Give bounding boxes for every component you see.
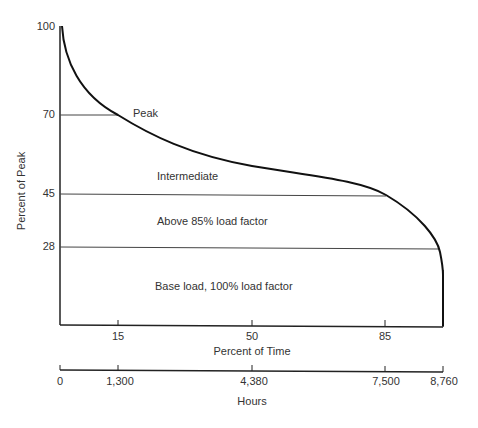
hours-tick-1300: 1,300 (106, 375, 134, 387)
y-tick-28: 28 (31, 240, 55, 252)
region-above85-label: Above 85% load factor (157, 215, 268, 227)
y-axis-label: Percent of Peak (15, 152, 27, 230)
hours-tick-8760: 8,760 (430, 375, 458, 387)
hours-axis-label: Hours (237, 395, 266, 407)
x-axis-label: Percent of Time (213, 345, 290, 357)
region-base-label: Base load, 100% load factor (155, 280, 293, 292)
load-duration-chart (0, 0, 478, 428)
region-intermediate-label: Intermediate (157, 170, 218, 182)
hours-tick-4380: 4,380 (240, 375, 268, 387)
line-45 (60, 194, 386, 196)
x-tick-85: 85 (379, 330, 391, 342)
hours-tick-0: 0 (57, 375, 63, 387)
x-tick-50: 50 (246, 330, 258, 342)
y-tick-45: 45 (31, 187, 55, 199)
region-peak-label: Peak (133, 107, 158, 119)
line-28 (60, 247, 438, 249)
y-tick-70: 70 (31, 108, 55, 120)
hours-tick-7500: 7,500 (372, 375, 400, 387)
y-tick-100: 100 (31, 20, 55, 32)
x-tick-15: 15 (112, 330, 124, 342)
